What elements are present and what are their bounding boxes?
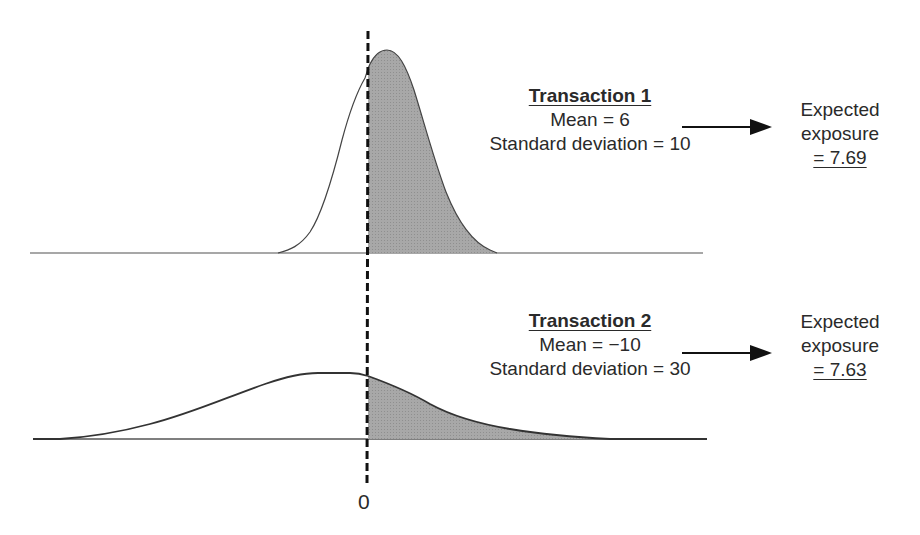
transaction-1-sd: Standard deviation = 10 — [480, 132, 700, 156]
transaction-2-title: Transaction 2 — [480, 309, 700, 333]
transaction-1-info: Transaction 1 Mean = 6 Standard deviatio… — [480, 84, 700, 156]
expected-exposure-value-1: = 7.69 — [780, 146, 900, 170]
transaction-1-title: Transaction 1 — [480, 84, 700, 108]
result-label-exposure: exposure — [780, 122, 900, 146]
expected-exposure-value-2: = 7.63 — [780, 358, 900, 382]
zero-line — [367, 31, 368, 483]
result-label-expected: Expected — [780, 310, 900, 334]
transaction-2-result: Expected exposure = 7.63 — [780, 310, 900, 382]
transaction-1-result: Expected exposure = 7.69 — [780, 98, 900, 170]
result-label-exposure: exposure — [780, 334, 900, 358]
distribution-diagram — [0, 0, 920, 535]
transaction-2-mean: Mean = −10 — [480, 333, 700, 357]
zero-axis-label: 0 — [358, 490, 370, 514]
transaction-1-mean: Mean = 6 — [480, 108, 700, 132]
transaction-2-info: Transaction 2 Mean = −10 Standard deviat… — [480, 309, 700, 381]
positive-exposure-area-2 — [368, 376, 610, 439]
result-label-expected: Expected — [780, 98, 900, 122]
transaction-2-sd: Standard deviation = 30 — [480, 357, 700, 381]
